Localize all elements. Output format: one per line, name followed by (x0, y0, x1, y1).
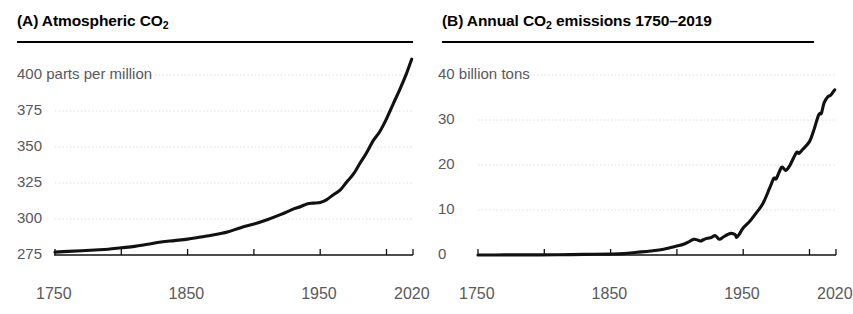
gridlines (55, 75, 413, 219)
x-tick-label: 1950 (301, 285, 337, 303)
y-tick-label: 350 (17, 137, 42, 154)
y-tick-label: 40 billion tons (438, 65, 530, 82)
panel-a-plot (0, 0, 425, 314)
data-line (478, 90, 835, 255)
x-tick-label: 1750 (459, 285, 495, 303)
data-line (55, 59, 412, 252)
y-tick-label: 10 (438, 200, 455, 217)
x-tick-label: 1950 (724, 285, 760, 303)
y-tick-label: 375 (17, 101, 42, 118)
panel-b-plot (425, 0, 849, 314)
y-tick-label: 30 (438, 110, 455, 127)
y-tick-label: 400 parts per million (17, 65, 152, 82)
panel-atmospheric-co2: (A) Atmospheric CO2 275300325350375400 p… (0, 0, 425, 314)
panel-annual-co2-emissions: (B) Annual CO2 emissions 1750–2019 01020… (425, 0, 849, 314)
y-tick-label: 275 (17, 245, 42, 262)
x-tick-label: 1750 (36, 285, 72, 303)
x-tick-label: 2020 (817, 285, 853, 303)
y-tick-label: 300 (17, 209, 42, 226)
y-tick-label: 20 (438, 155, 455, 172)
x-tick-label: 1850 (592, 285, 628, 303)
gridlines (478, 75, 836, 210)
y-tick-label: 325 (17, 173, 42, 190)
x-tick-label: 1850 (169, 285, 205, 303)
y-tick-label: 0 (438, 245, 446, 262)
